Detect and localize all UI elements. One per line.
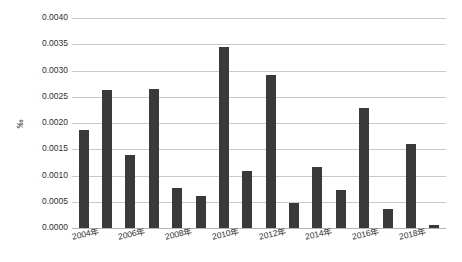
x-tick-label: 2016年 <box>351 226 381 243</box>
bar <box>125 155 135 228</box>
bar <box>79 130 89 228</box>
bar <box>196 196 206 228</box>
bar <box>406 144 416 228</box>
y-tick-label: 0.0005 <box>24 197 68 206</box>
x-axis-tick-labels: 2004年2006年2008年2010年2012年2014年2016年2018年 <box>72 228 446 262</box>
y-tick-label: 0.0015 <box>24 144 68 153</box>
x-tick-label: 2006年 <box>117 226 147 243</box>
x-tick-label: 2004年 <box>71 226 101 243</box>
bar <box>336 190 346 228</box>
y-tick-label: 0.0025 <box>24 92 68 101</box>
bar <box>242 171 252 228</box>
bar <box>289 203 299 228</box>
y-tick-label: 0.0010 <box>24 171 68 180</box>
bar <box>172 188 182 228</box>
x-tick-label: 2014年 <box>304 226 334 243</box>
y-tick-label: 0.0040 <box>24 13 68 22</box>
bar <box>359 108 369 228</box>
x-tick-label: 2008年 <box>164 226 194 243</box>
y-tick-label: 0.0035 <box>24 39 68 48</box>
bar <box>266 75 276 228</box>
x-tick-label: 2018年 <box>398 226 428 243</box>
bar-chart: ‰ 0.00000.00050.00100.00150.00200.00250.… <box>0 0 462 262</box>
y-axis-tick-labels: 0.00000.00050.00100.00150.00200.00250.00… <box>24 0 68 262</box>
x-tick-label: 2012年 <box>258 226 288 243</box>
bar <box>219 47 229 228</box>
y-tick-label: 0.0030 <box>24 66 68 75</box>
bar <box>102 90 112 228</box>
bar <box>312 167 322 228</box>
bar <box>149 89 159 228</box>
y-tick-label: 0.0000 <box>24 223 68 232</box>
y-tick-label: 0.0020 <box>24 118 68 127</box>
bar <box>383 209 393 228</box>
plot-area <box>72 18 446 228</box>
bar-series <box>72 18 446 228</box>
x-tick-label: 2010年 <box>211 226 241 243</box>
